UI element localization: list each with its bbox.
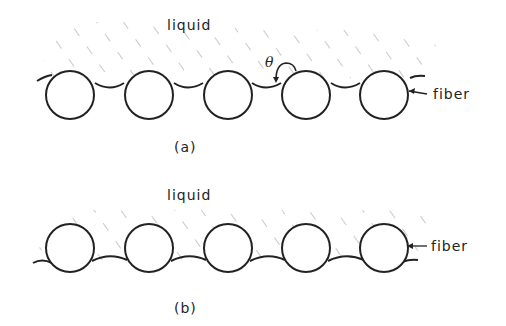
caption-a: (a) (174, 139, 197, 155)
panel-b: liquid fiber (b) (32, 187, 468, 316)
fiber-b-3 (204, 224, 252, 272)
fiber-b-4 (282, 224, 330, 272)
contact-angle-arrowhead (273, 77, 279, 83)
liquid-label-a: liquid (167, 17, 211, 33)
fiber-label-a: fiber (433, 86, 470, 102)
fiber-pointer-arrow-a (409, 88, 415, 94)
liquid-label-b: liquid (167, 187, 211, 203)
fiber-a-1 (46, 71, 94, 119)
angle-label-theta: θ (265, 54, 274, 70)
fiber-a-4 (282, 71, 330, 119)
fiber-a-2 (125, 71, 173, 119)
panel-a: θ liquid fiber (a) (36, 17, 470, 155)
fiber-b-2 (125, 224, 173, 272)
fiber-label-b: fiber (431, 238, 468, 254)
fiber-b-1 (46, 224, 94, 272)
fiber-a-5 (360, 71, 408, 119)
fiber-a-3 (204, 71, 252, 119)
fiber-wetting-diagram: θ liquid fiber (a) liquid fiber (b) (0, 0, 506, 326)
fiber-b-5 (360, 224, 408, 272)
liquid-region-a (36, 22, 440, 78)
caption-b: (b) (174, 300, 197, 316)
